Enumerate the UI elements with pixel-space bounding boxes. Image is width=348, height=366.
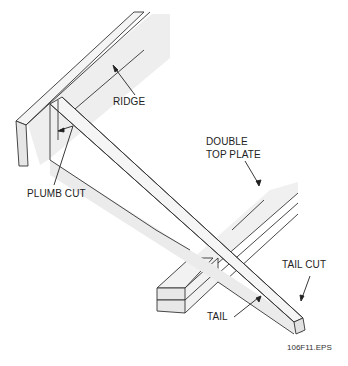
label-tail: TAIL	[207, 311, 228, 322]
label-ridge: RIDGE	[113, 96, 145, 107]
label-tail-cut: TAIL CUT	[282, 259, 326, 270]
label-double-top-plate-line2: TOP PLATE	[206, 149, 261, 160]
framing-diagram	[0, 0, 348, 366]
label-plumb-cut: PLUMB CUT	[27, 188, 86, 199]
figure-id-caption: 106F11.EPS	[287, 343, 332, 352]
label-double-top-plate-line1: DOUBLE	[206, 136, 248, 147]
